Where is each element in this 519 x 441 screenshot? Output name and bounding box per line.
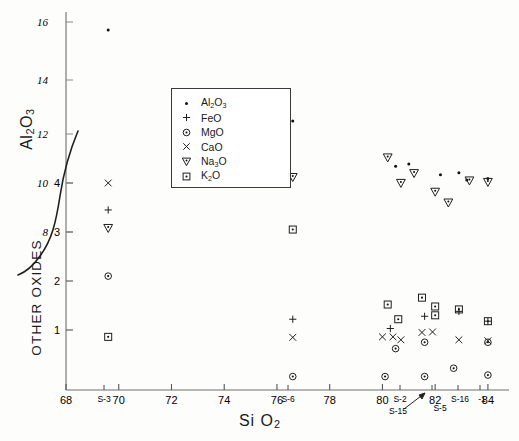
- legend-marker-cross-icon: [180, 140, 193, 153]
- x-axis-title-sio2: Si O2: [200, 412, 320, 430]
- x-sample-label-S15: S-15: [389, 406, 407, 416]
- legend-label-MgO: MgO: [201, 126, 224, 138]
- point-MgO-2-dot: [384, 376, 386, 378]
- point-Al2O3-5: [457, 171, 460, 174]
- point-Na3O-5-dot: [434, 190, 436, 192]
- legend-marker-square-dot-icon: [180, 170, 193, 183]
- legend-label-Na3O: Na3O: [201, 155, 227, 169]
- legend-label-K2O: K2O: [201, 169, 220, 183]
- point-K2O-6-dot: [434, 314, 436, 316]
- x-tick-label-72: 72: [165, 394, 177, 406]
- legend-item-MgO: MgO: [180, 125, 224, 139]
- point-K2O-8-dot: [487, 320, 489, 322]
- y-axis-title-other-oxides: OTHER OXIDES: [29, 218, 44, 378]
- x-sample-label-S6: S-6: [281, 394, 295, 404]
- point-MgO-5-dot: [424, 376, 426, 378]
- x-sample-label-S2: S-2: [393, 394, 407, 404]
- y-tick-label-oxides-1: 1: [54, 324, 60, 336]
- point-Na3O-8-dot: [487, 180, 489, 182]
- point-Al2O3-0: [107, 29, 110, 32]
- x-sample-label-S3: S-3: [97, 394, 111, 404]
- x-sample-label-1: -1: [478, 394, 486, 404]
- x-tick-label-78: 78: [324, 394, 336, 406]
- y-tick-label-oxides-4: 4: [54, 177, 60, 189]
- point-K2O-4-dot: [421, 297, 423, 299]
- point-Na3O-1-dot: [292, 175, 294, 177]
- point-Na3O-4: [396, 179, 405, 187]
- point-MgO-7-dot: [487, 374, 489, 376]
- point-K2O-1-dot: [292, 229, 294, 231]
- point-MgO-4-dot: [424, 341, 426, 343]
- point-Al2O3-4: [439, 173, 442, 176]
- legend-marker-plus-icon: [180, 111, 193, 124]
- point-Na3O-7-dot: [468, 178, 470, 180]
- legend-item-CaO: CaO: [180, 140, 223, 154]
- legend-label-Al2O3: Al2O3: [201, 96, 226, 110]
- legend-label-FeO: FeO: [201, 112, 221, 124]
- y-axis-title-al2o3: Al2O3: [18, 94, 36, 164]
- legend-label-CaO: CaO: [201, 141, 223, 153]
- point-MgO-6-dot: [453, 367, 455, 369]
- point-Na3O-2-dot: [387, 155, 389, 157]
- point-Al2O3-1: [291, 120, 294, 123]
- point-Na3O-6-dot: [447, 201, 449, 203]
- point-Na3O-3: [410, 170, 419, 178]
- point-K2O-2-dot: [387, 303, 389, 305]
- point-Al2O3-3: [407, 162, 410, 165]
- point-K2O-3-dot: [397, 318, 399, 320]
- s15-pointer-arrow: [419, 393, 425, 399]
- point-Na3O-2: [383, 154, 392, 162]
- point-Na3O-6: [444, 199, 453, 207]
- point-K2O-5-dot: [434, 305, 436, 307]
- point-Na3O-0: [104, 224, 113, 232]
- legend-item-Al2O3: Al2O3: [180, 96, 226, 110]
- legend-item-K2O: K2O: [180, 169, 220, 183]
- y-tick-label-oxides-3: 3: [54, 226, 60, 238]
- dot: [185, 102, 188, 105]
- x-tick-label-70: 70: [113, 394, 125, 406]
- x-tick-label-80: 80: [376, 394, 388, 406]
- y-tick-label-oxides-2: 2: [54, 275, 60, 287]
- legend-marker-circle-dot-icon: [180, 126, 193, 139]
- y-axis-title-al2o3-text: Al2O3: [18, 109, 35, 150]
- point-Na3O-4-dot: [400, 181, 402, 183]
- point-Na3O-0-dot: [107, 226, 109, 228]
- x-sample-label-S16: S-16: [451, 394, 469, 404]
- y-tick-label-al2o3-16: 16: [37, 16, 49, 28]
- point-MgO-0-dot: [107, 275, 109, 277]
- y-tick-label-al2o3-12: 12: [37, 128, 49, 140]
- legend-marker-triangle-down-icon: [180, 155, 193, 168]
- x-sample-label-S5: S-5: [433, 403, 447, 413]
- point-K2O-7-dot: [458, 308, 460, 310]
- point-Na3O-5: [431, 188, 440, 196]
- x-tick-label-68: 68: [60, 394, 72, 406]
- point-MgO-3-dot: [395, 348, 397, 350]
- x-tick-label-74: 74: [218, 394, 230, 406]
- point-MgO-1-dot: [292, 376, 294, 378]
- point-K2O-0-dot: [107, 336, 109, 338]
- point-Na3O-3-dot: [413, 171, 415, 173]
- legend-item-FeO: FeO: [180, 111, 221, 125]
- point-Al2O3-2: [394, 165, 397, 168]
- scatter-plot: 6870727476788082844321161412108S-3S-6S-2…: [0, 0, 519, 441]
- legend-marker-dot-icon: [180, 97, 193, 110]
- y-tick-label-al2o3-14: 14: [37, 74, 49, 86]
- legend-item-Na3O: Na3O: [180, 154, 227, 168]
- y-tick-label-al2o3-10: 10: [37, 177, 49, 189]
- legend-box: Al2O3FeOMgOCaONa3OK2O: [171, 88, 291, 188]
